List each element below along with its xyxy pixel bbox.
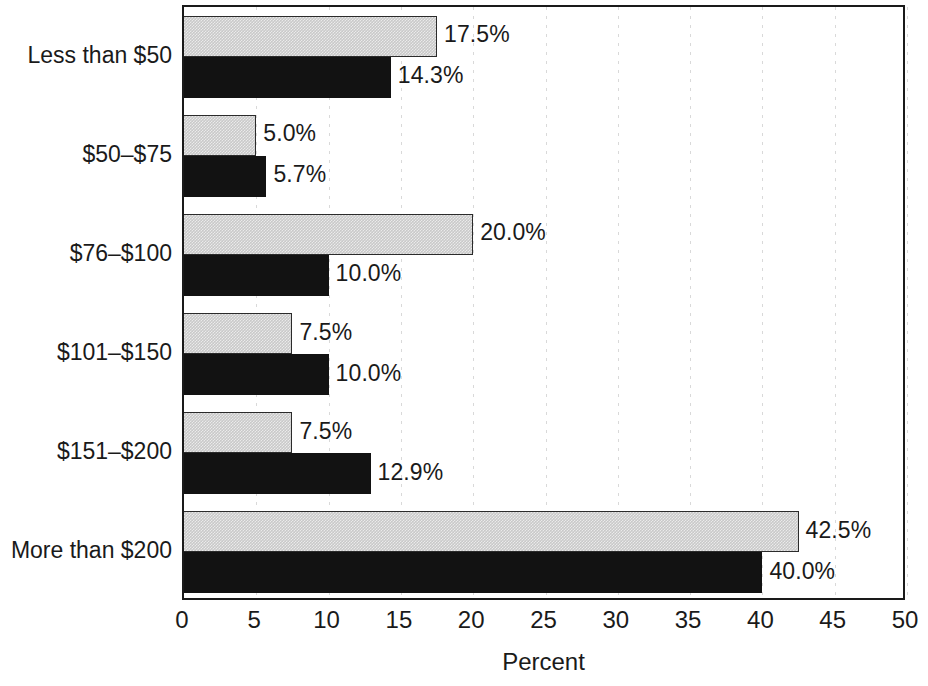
category-label-3: $101–$150 (0, 339, 172, 366)
x-axis-ticks: 05101520253035404550 (182, 606, 905, 640)
bar-light-2 (184, 214, 473, 255)
category-label-0: Less than $50 (0, 41, 172, 68)
bar-dark-2 (184, 255, 329, 296)
gridline (907, 7, 908, 598)
bar-value-dark-5: 40.0% (769, 557, 835, 584)
x-tick-label-40: 40 (747, 606, 774, 634)
bar-value-dark-1: 5.7% (273, 161, 326, 188)
x-tick-label-50: 50 (892, 606, 919, 634)
plot-area (182, 5, 905, 600)
bar-value-light-4: 7.5% (299, 417, 352, 444)
bar-dark-0 (184, 57, 391, 98)
x-tick-label-35: 35 (675, 606, 702, 634)
category-label-4: $151–$200 (0, 438, 172, 465)
gridline (546, 7, 547, 598)
bar-value-light-1: 5.0% (263, 120, 316, 147)
gridline (473, 7, 474, 598)
bar-light-0 (184, 16, 437, 57)
bar-value-dark-0: 14.3% (398, 62, 464, 89)
bar-value-light-0: 17.5% (444, 21, 510, 48)
bar-value-light-3: 7.5% (299, 318, 352, 345)
bar-light-3 (184, 313, 292, 354)
category-label-2: $76–$100 (0, 239, 172, 266)
x-tick-label-15: 15 (386, 606, 413, 634)
x-tick-label-25: 25 (530, 606, 557, 634)
bar-light-1 (184, 115, 256, 156)
gridline (401, 7, 402, 598)
gridline (690, 7, 691, 598)
bar-value-dark-4: 12.9% (378, 458, 444, 485)
x-tick-label-45: 45 (819, 606, 846, 634)
x-tick-label-0: 0 (175, 606, 188, 634)
x-tick-label-30: 30 (602, 606, 629, 634)
bar-light-4 (184, 412, 292, 453)
bar-chart: Less than $50$50–$75$76–$100$101–$150$15… (0, 0, 928, 686)
x-axis-title: Percent (182, 648, 905, 676)
bar-light-5 (184, 511, 799, 552)
category-label-1: $50–$75 (0, 140, 172, 167)
x-tick-label-5: 5 (248, 606, 261, 634)
bar-dark-4 (184, 453, 371, 494)
bar-value-light-2: 20.0% (480, 219, 546, 246)
bar-value-dark-3: 10.0% (336, 359, 402, 386)
gridline (835, 7, 836, 598)
bar-dark-5 (184, 552, 762, 593)
bar-dark-1 (184, 156, 266, 197)
x-tick-label-10: 10 (313, 606, 340, 634)
x-tick-label-20: 20 (458, 606, 485, 634)
bar-value-dark-2: 10.0% (336, 260, 402, 287)
bar-value-light-5: 42.5% (806, 516, 872, 543)
gridline (618, 7, 619, 598)
category-label-5: More than $200 (0, 537, 172, 564)
bar-dark-3 (184, 354, 329, 395)
gridline (762, 7, 763, 598)
